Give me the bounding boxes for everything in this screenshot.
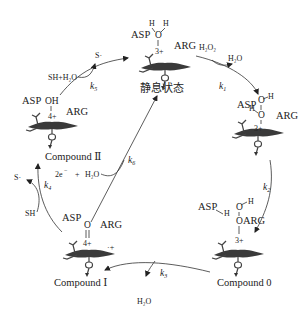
c2-asp-label: ASP	[22, 95, 41, 106]
resting-state: ASP H H O 3+ ARG 静息状态	[131, 19, 197, 94]
k6-input-h2o: H₂O	[85, 170, 100, 179]
k6-input-e-sup: −	[64, 167, 68, 173]
arrow-k1	[196, 56, 258, 94]
c1-radical: ·+	[107, 243, 115, 252]
c1-charge: 4+	[83, 239, 92, 248]
k6-input-arrow	[101, 160, 124, 176]
k6-input-plus: +	[75, 170, 80, 179]
k3-label: k3	[160, 268, 167, 279]
k1-output-h2o: H₂O	[228, 54, 243, 63]
resting-charge: 3+	[155, 47, 164, 56]
compound2-label: Compound Ⅱ	[45, 151, 101, 162]
k5-label: k5	[90, 81, 97, 92]
int1-charge: 3+	[254, 124, 263, 133]
k2-label: k2	[263, 182, 270, 193]
resting-asp-label: ASP	[131, 29, 150, 40]
intermediate1-state: ASP O H H O ARG 3+	[232, 92, 299, 156]
c1-o: O	[84, 220, 91, 230]
k1-label: k1	[219, 81, 226, 92]
k6-label: k6	[128, 155, 135, 166]
c1-arg-label: ARG	[100, 219, 123, 230]
compound0-state: ASP H O H O ARG 3+ Compound 0	[198, 197, 272, 288]
resting-h2: H	[163, 19, 169, 28]
c0-charge: 3+	[235, 236, 244, 245]
resting-state-label: 静息状态	[140, 81, 184, 94]
k5-input: SH+H₂O	[48, 73, 77, 82]
k4-output-s: S·	[14, 173, 21, 182]
arrow-k3	[105, 263, 210, 272]
compound1-state: ASP O 4+ ·+ ARG Compound Ⅰ	[54, 212, 123, 288]
c0-h-asp: H	[224, 209, 230, 218]
k4-label: k4	[44, 180, 51, 191]
compound2-state: ASP OH 4+ ARG Compound Ⅱ	[22, 95, 101, 162]
compound1-label: Compound Ⅰ	[54, 277, 107, 288]
c1-asp-label: ASP	[62, 212, 81, 223]
c0-o1: O	[236, 202, 243, 212]
c0-h1: H	[248, 197, 254, 206]
cycle-svg: ASP H H O 3+ ARG 静息状态 ASP O H H O ARG 3+…	[0, 0, 307, 319]
k1-input-h2o2: H₂O₂	[199, 43, 216, 52]
int1-arg-label: ARG	[276, 110, 299, 121]
int1-h1: H	[268, 92, 274, 101]
k4-input-sh: SH	[25, 209, 35, 218]
c2-oh: OH	[45, 96, 59, 106]
k6-input-e: 2e	[55, 170, 63, 179]
peroxidase-cycle-diagram: ASP H H O 3+ ARG 静息状态 ASP O H H O ARG 3+…	[0, 0, 307, 319]
k3-output-arrow	[146, 261, 155, 276]
c0-o2: O	[236, 216, 243, 226]
resting-arg-label: ARG	[174, 40, 197, 51]
k4-output-arrow	[27, 180, 39, 212]
k5-output-s: S·	[95, 51, 102, 60]
resting-h1: H	[149, 19, 155, 28]
k3-output-h2o: H₂O	[137, 297, 152, 306]
compound0-label: Compound 0	[217, 277, 272, 288]
side-reactions: H₂O₂ H₂O H₂O SH S· SH+H₂O S· 2e − + H₂O	[14, 43, 243, 306]
c2-charge: 4+	[48, 112, 57, 121]
int1-o1: O	[258, 95, 265, 105]
int1-o2: O	[258, 110, 265, 120]
c2-arg-label: ARG	[66, 106, 89, 117]
int1-h2: H	[249, 104, 255, 113]
c0-asp-label: ASP	[198, 201, 217, 212]
